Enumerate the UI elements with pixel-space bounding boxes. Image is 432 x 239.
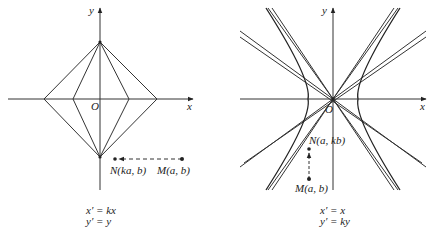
diagram-canvas: y x O N(ka, b) M(a, b) x′ = kx y′ = y y … [0, 0, 432, 239]
point-m-right-label: M(a, b) [294, 182, 328, 195]
right-equation-2: y′ = ky [319, 215, 350, 227]
top-vertex-dot [98, 40, 101, 43]
left-equation-2: y′ = y [85, 215, 111, 227]
point-n-left [113, 157, 117, 161]
point-m-left-label: M(a, b) [156, 164, 190, 177]
left-y-label: y [88, 4, 94, 16]
point-n-right-label: N(a, kb) [308, 134, 345, 147]
left-origin-label: O [91, 100, 99, 112]
right-origin-dot [331, 97, 335, 101]
right-x-label: x [419, 100, 425, 112]
left-x-label: x [186, 100, 192, 112]
point-n-right [307, 147, 311, 151]
point-n-left-label: N(ka, b) [109, 164, 146, 177]
point-m-right [307, 177, 311, 181]
right-y-label: y [321, 4, 327, 16]
bottom-vertex-dot [98, 155, 101, 158]
right-figure: y x O N(a, kb) M(a, b) x′ = x y′ = ky [240, 4, 426, 227]
point-m-left [180, 157, 184, 161]
left-figure: y x O N(ka, b) M(a, b) x′ = kx y′ = y [8, 4, 193, 227]
